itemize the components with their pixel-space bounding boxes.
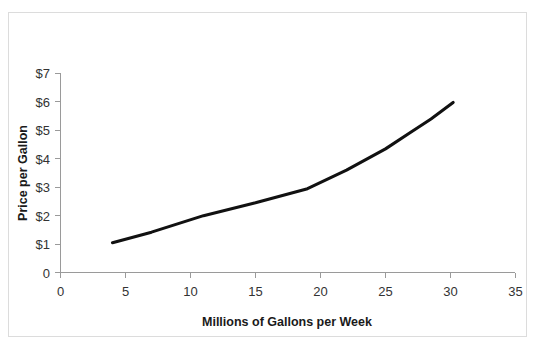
x-tick-labels: 0 5 10 15 20 25 30 35: [57, 284, 523, 299]
x-tick-label-20: 20: [313, 284, 327, 299]
chart-figure: $7 $6 $5 $4 $3 $2 $1 0 0 5 10 15 20 25 3…: [0, 0, 536, 348]
line-chart: $7 $6 $5 $4 $3 $2 $1 0 0 5 10 15 20 25 3…: [0, 0, 536, 348]
x-tick-label-5: 5: [122, 284, 129, 299]
x-tick-label-15: 15: [248, 284, 262, 299]
axes-group: [61, 73, 516, 273]
y-tick-label-4: $4: [36, 152, 50, 167]
y-tick-labels: $7 $6 $5 $4 $3 $2 $1 0: [36, 66, 50, 281]
y-tick-label-0: 0: [43, 266, 50, 281]
x-tick-marks: [61, 273, 516, 279]
x-tick-label-10: 10: [183, 284, 197, 299]
x-tick-label-30: 30: [443, 284, 457, 299]
y-tick-marks: [55, 74, 61, 273]
x-tick-label-35: 35: [508, 284, 522, 299]
y-axis-title: Price per Gallon: [16, 125, 30, 221]
x-axis-title: Millions of Gallons per Week: [202, 315, 372, 329]
y-tick-label-5: $5: [36, 123, 50, 138]
x-tick-label-0: 0: [57, 284, 64, 299]
y-tick-label-1: $1: [36, 237, 50, 252]
y-tick-label-7: $7: [36, 66, 50, 81]
y-tick-label-3: $3: [36, 180, 50, 195]
y-tick-label-2: $2: [36, 209, 50, 224]
y-tick-label-6: $6: [36, 95, 50, 110]
x-tick-label-25: 25: [378, 284, 392, 299]
supply-curve: [113, 103, 454, 243]
